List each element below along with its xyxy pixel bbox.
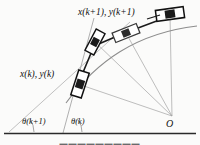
label-theta-k: θ(k) <box>71 117 85 126</box>
label-turning-center-o: O <box>166 119 173 129</box>
vehicle-pose-k <box>71 70 89 98</box>
vehicle-pose-k-plus-1 <box>155 7 184 22</box>
vehicle-pose-mid-2 <box>112 23 140 42</box>
vehicle-cabin-icon <box>164 9 175 18</box>
clipped-figure-caption: ▬▬▬▬▬▬▬▬▬ <box>0 139 200 145</box>
label-theta-k-plus-1: θ(k+1) <box>22 117 46 126</box>
radial-line-to-pose-mid-2 <box>126 33 172 116</box>
label-position-k: x(k), y(k) <box>20 70 54 80</box>
radial-line-to-pose-k <box>78 84 172 116</box>
vehicle-turning-geometry-figure: x(k+1), y(k+1) x(k), y(k) θ(k+1) θ(k) O … <box>0 0 200 145</box>
label-position-k-plus-1: x(k+1), y(k+1) <box>78 8 135 18</box>
radial-line-to-pose-mid-1 <box>95 42 172 116</box>
